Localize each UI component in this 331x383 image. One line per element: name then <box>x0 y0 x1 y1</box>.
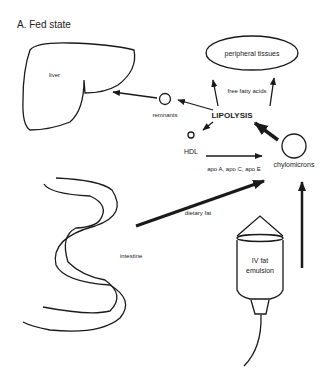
intestine-label: intestine <box>120 253 143 259</box>
iv-label-line2: emulsion <box>246 267 274 274</box>
peripheral-tissues-label: peripheral tissues <box>225 50 280 58</box>
liver-shape <box>23 43 135 130</box>
hdl-particle <box>188 132 194 138</box>
apo-label: apo A, apo C, apo E <box>207 166 261 172</box>
liver-label: liver <box>49 72 60 78</box>
remnants-label: remnants <box>152 112 177 118</box>
arrow-lipolysis-to-remnants <box>178 100 213 110</box>
arrow-remnants-to-liver <box>113 92 157 98</box>
arrow-ffa-left <box>213 80 218 106</box>
lipolysis-label: LIPOLYSIS <box>211 111 253 120</box>
iv-fat-emulsion-bottle <box>237 216 283 366</box>
hdl-label: HDL <box>184 148 198 155</box>
arrow-chylomicrons-to-lipolysis <box>255 123 278 140</box>
chylomicrons-particle <box>282 134 306 158</box>
arrow-ffa-right <box>270 78 274 106</box>
intestine-inner <box>43 184 117 313</box>
iv-label-line1: IV fat <box>252 257 268 264</box>
arrow-dietary-fat <box>136 181 264 226</box>
figure-title: A. Fed state <box>17 19 71 30</box>
chylomicrons-label: chylomicrons <box>274 161 315 169</box>
remnants-particle <box>160 94 171 105</box>
free-fatty-acids-label: free fatty acids <box>227 88 266 94</box>
intestine-outer <box>23 178 126 331</box>
dietary-fat-label: dietary fat <box>185 210 212 216</box>
fed-state-diagram: A. Fed state liver peripheral tissues re… <box>0 0 331 383</box>
arrow-lipolysis-to-hdl <box>203 122 213 130</box>
